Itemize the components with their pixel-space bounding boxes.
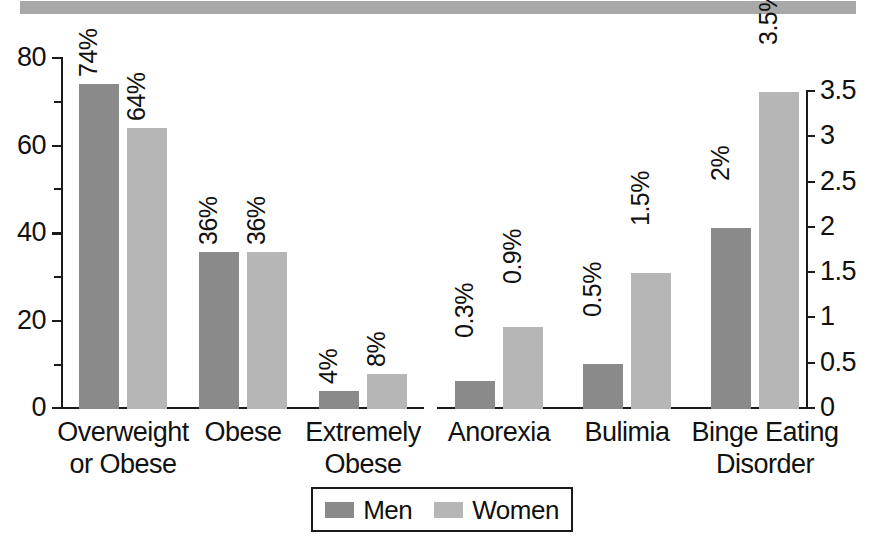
category-label-bulimia: Bulimia — [563, 416, 691, 448]
bar-label-men-bulimia: 0.5% — [580, 262, 605, 317]
legend-swatch-women-icon — [434, 502, 463, 518]
left-tick-label-40: 40 — [17, 219, 46, 246]
bar-women-overweight-or-obese — [127, 128, 167, 409]
left-tick-label-80: 80 — [17, 44, 46, 71]
right-tick-3 — [806, 135, 815, 137]
bar-men-extremely-obese — [319, 391, 359, 409]
legend-entry-women[interactable]: Women — [434, 497, 559, 523]
left-tick-major-40 — [52, 232, 61, 234]
category-label-line-1: Anorexia — [429, 416, 569, 448]
right-tick-label-3: 3 — [820, 122, 835, 149]
bar-men-bulimia — [583, 364, 623, 409]
bar-label-men-overweight-or-obese: 74% — [76, 28, 101, 77]
left-tick-major-80 — [52, 57, 61, 59]
bar-label-women-obese: 36% — [244, 196, 269, 245]
category-label-line-1: Extremely — [293, 416, 433, 448]
bar-label-men-anorexia: 0.3% — [452, 283, 477, 338]
category-label-binge-eating-disorder: Binge Eating Disorder — [679, 416, 851, 480]
category-label-anorexia: Anorexia — [429, 416, 569, 448]
left-tick-minor-10 — [54, 364, 61, 366]
chart-figure: 80 60 40 20 0 3.5 3 2.5 2 1.5 1 0.5 0 74… — [0, 0, 882, 550]
left-tick-minor-70 — [54, 101, 61, 103]
category-label-line-2: Disorder — [679, 448, 851, 480]
right-tick-0 — [806, 407, 815, 409]
category-label-extremely-obese: Extremely Obese — [293, 416, 433, 480]
left-tick-label-20: 20 — [17, 307, 46, 334]
category-label-line-2: or Obese — [43, 448, 203, 480]
bar-label-women-binge-eating-disorder: 3.5% — [756, 0, 781, 45]
right-tick-1-5 — [806, 271, 815, 273]
category-label-line-1: Obese — [183, 416, 303, 448]
bar-women-binge-eating-disorder — [759, 92, 799, 409]
right-tick-0-5 — [806, 362, 815, 364]
bar-label-women-bulimia: 1.5% — [628, 171, 653, 226]
bar-men-binge-eating-disorder — [711, 228, 751, 409]
category-label-line-2: Obese — [293, 448, 433, 480]
bar-label-men-obese: 36% — [196, 196, 221, 245]
category-label-line-1: Binge Eating — [679, 416, 851, 448]
right-tick-label-1-5: 1.5 — [820, 258, 856, 285]
bar-label-men-extremely-obese: 4% — [316, 349, 341, 384]
left-tick-minor-50 — [54, 188, 61, 190]
bar-label-women-anorexia: 0.9% — [500, 229, 525, 284]
plot-area: 80 60 40 20 0 3.5 3 2.5 2 1.5 1 0.5 0 74… — [0, 0, 882, 550]
left-tick-0 — [52, 407, 61, 409]
bar-men-anorexia — [455, 381, 495, 409]
right-tick-label-3-5: 3.5 — [820, 77, 856, 104]
bar-women-extremely-obese — [367, 374, 407, 409]
right-tick-label-1: 1 — [820, 303, 835, 330]
right-tick-label-2-5: 2.5 — [820, 168, 856, 195]
right-tick-1 — [806, 316, 815, 318]
bar-women-obese — [247, 252, 287, 409]
bar-label-women-overweight-or-obese: 64% — [124, 72, 149, 121]
bar-label-men-binge-eating-disorder: 2% — [708, 146, 733, 181]
category-label-line-1: Overweight — [43, 416, 203, 448]
left-axis-line — [61, 57, 63, 409]
legend-label-women: Women — [472, 497, 559, 523]
bar-women-anorexia — [503, 327, 543, 409]
left-tick-major-20 — [52, 320, 61, 322]
category-label-overweight-or-obese: Overweight or Obese — [43, 416, 203, 480]
right-tick-2 — [806, 226, 815, 228]
bar-women-bulimia — [631, 273, 671, 409]
legend-label-men: Men — [363, 497, 412, 523]
right-tick-3-5 — [806, 90, 815, 92]
left-tick-label-60: 60 — [17, 132, 46, 159]
legend-entry-men[interactable]: Men — [325, 497, 412, 523]
legend-swatch-men-icon — [325, 502, 354, 518]
chart-legend: Men Women — [311, 487, 573, 532]
bar-men-obese — [199, 252, 239, 409]
bar-label-women-extremely-obese: 8% — [364, 332, 389, 367]
right-tick-label-2: 2 — [820, 213, 835, 240]
right-tick-label-0-5: 0.5 — [820, 349, 856, 376]
category-label-obese: Obese — [183, 416, 303, 448]
bar-men-overweight-or-obese — [79, 84, 119, 409]
category-label-line-1: Bulimia — [563, 416, 691, 448]
left-tick-major-60 — [52, 145, 61, 147]
right-tick-2-5 — [806, 181, 815, 183]
left-tick-minor-30 — [54, 276, 61, 278]
